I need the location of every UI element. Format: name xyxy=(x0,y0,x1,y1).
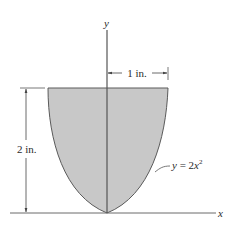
equation-leader-line xyxy=(155,166,170,172)
width-dimension-label: 1 in. xyxy=(127,67,147,79)
curve-equation-label: y = 2x2 xyxy=(171,158,203,171)
parabolic-region-diagram: y x 1 in. 2 in. y = 2x2 xyxy=(0,0,232,228)
height-dimension-label: 2 in. xyxy=(17,143,37,155)
y-axis-label: y xyxy=(103,17,109,29)
shaded-region xyxy=(48,88,168,213)
x-axis-label: x xyxy=(217,207,223,219)
